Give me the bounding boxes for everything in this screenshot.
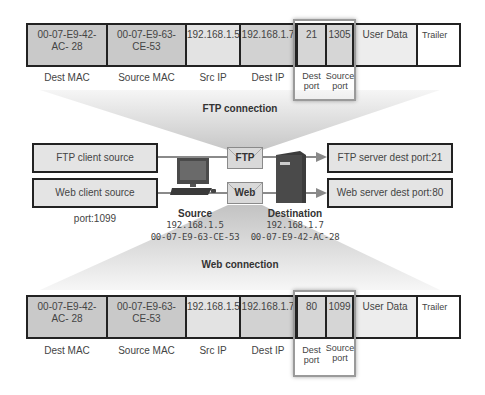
ftp-server-port-box: FTP server dest port:21 (327, 143, 453, 173)
bottom-dest-mac-value-2: AC- 28 (28, 313, 106, 325)
ftp-client-port-box: FTP client source port:1305 (32, 143, 158, 173)
destination-mac: 00-07-E9-42-AC-28 (251, 232, 340, 242)
bottom-dest-port-label-2: port (296, 355, 327, 365)
bottom-trailer-cell: Trailer (416, 295, 461, 339)
bottom-dest-port-label: Dest port (296, 345, 327, 365)
bottom-source-mac-cell: 00-07-E9-63- CE-53 (106, 295, 187, 339)
web-protocol-label: Web (235, 187, 256, 198)
bottom-source-mac-value-2: CE-53 (108, 313, 185, 325)
web-client-port-box: Web client source port:1099 (32, 178, 158, 208)
web-server-port-box: Web server dest port:80 (327, 178, 453, 208)
bottom-src-ip-value: 192.168.1.5 (187, 301, 240, 312)
web-protocol-box: Web (227, 182, 263, 204)
ftp-protocol-box: FTP (227, 147, 263, 169)
source-mac: 00-07-E9-63-CE-53 (151, 232, 240, 242)
bottom-user-data-value: User Data (362, 301, 407, 312)
destination-title: Destination (268, 208, 322, 219)
bottom-trailer-value: Trailer (422, 302, 447, 312)
bottom-dest-mac-label: Dest MAC (26, 345, 108, 356)
ftp-arrow-icon (316, 152, 327, 162)
bottom-dest-mac-cell: 00-07-E9-42- AC- 28 (26, 295, 108, 339)
source-ip: 192.168.1.5 (166, 220, 223, 230)
bottom-dest-port-label-1: Dest (296, 345, 327, 355)
source-node-label: Source 192.168.1.5 00-07-E9-63-CE-53 (150, 208, 240, 243)
source-title: Source (178, 208, 212, 219)
ftp-protocol-label: FTP (236, 152, 255, 163)
destination-node-label: Destination 192.168.1.7 00-07-E9-42-AC-2… (245, 208, 345, 243)
web-arrow-icon (316, 188, 327, 198)
bottom-dest-ip-cell: 192.168.1.7 (239, 295, 297, 339)
bottom-source-port-label-2: port (325, 353, 355, 363)
bottom-dest-mac-value-1: 00-07-E9-42- (28, 301, 106, 313)
bottom-source-mac-label: Source MAC (106, 345, 187, 356)
bottom-dest-ip-label: Dest IP (239, 345, 297, 356)
bottom-source-port-label: Source port (325, 343, 355, 363)
bottom-source-mac-value-1: 00-07-E9-63- (108, 301, 185, 313)
bottom-src-ip-cell: 192.168.1.5 (185, 295, 241, 339)
server-tower-icon (272, 151, 308, 205)
destination-ip: 192.168.1.7 (266, 220, 323, 230)
bottom-dest-ip-value: 192.168.1.7 (242, 301, 295, 312)
bottom-user-data-cell: User Data (352, 295, 418, 339)
bottom-src-ip-label: Src IP (185, 345, 241, 356)
desktop-computer-icon (168, 158, 218, 200)
web-connection-title: Web connection (180, 259, 300, 270)
bottom-source-port-label-1: Source (325, 343, 355, 353)
